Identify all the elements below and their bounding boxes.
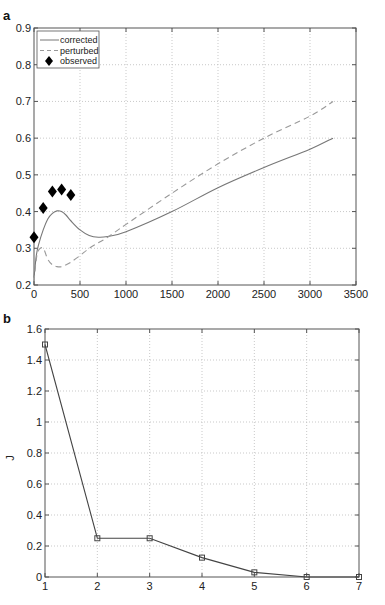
x-tick-label: 2	[94, 580, 100, 592]
y-axis-label: J	[4, 455, 16, 461]
x-tick-label: 1000	[114, 288, 138, 300]
chart-a: a05001000150020002500300035000.20.30.40.…	[3, 8, 368, 300]
y-tick-label: 0.7	[16, 95, 31, 107]
legend-label: corrected	[60, 35, 98, 45]
y-tick-label: 0.6	[27, 478, 42, 490]
x-tick-label: 3500	[344, 288, 368, 300]
panel-label: b	[3, 311, 11, 326]
y-tick-label: 0.3	[16, 242, 31, 254]
x-tick-label: 7	[356, 580, 362, 592]
x-tick-label: 6	[304, 580, 310, 592]
x-tick-label: 3000	[298, 288, 322, 300]
x-tick-label: 500	[71, 288, 89, 300]
x-tick-label: 1	[42, 580, 48, 592]
y-tick-label: 0.6	[16, 132, 31, 144]
x-tick-label: 0	[31, 288, 37, 300]
y-tick-label: 0.5	[16, 169, 31, 181]
y-tick-label: 0.8	[16, 59, 31, 71]
y-tick-label: 0.2	[27, 540, 42, 552]
y-tick-label: 0	[36, 571, 42, 583]
legend-label: observed	[60, 56, 97, 66]
legend-label: perturbed	[60, 46, 99, 56]
x-tick-label: 3	[147, 580, 153, 592]
series-perturbed	[34, 101, 333, 281]
x-tick-label: 4	[199, 580, 205, 592]
y-tick-label: 1.2	[27, 385, 42, 397]
grid	[45, 329, 359, 577]
x-tick-label: 5	[251, 580, 257, 592]
x-tick-label: 2500	[252, 288, 276, 300]
observed-marker	[39, 202, 48, 214]
y-tick-label: 0.2	[16, 279, 31, 291]
chart-b: b123456700.20.40.60.811.21.41.6J	[3, 311, 362, 592]
y-tick-label: 0.8	[27, 447, 42, 459]
axis-ticks: 123456700.20.40.60.811.21.41.6	[27, 323, 362, 592]
x-tick-label: 1500	[160, 288, 184, 300]
y-tick-label: 1.4	[27, 354, 42, 366]
series-corrected	[34, 138, 333, 278]
y-tick-label: 0.9	[16, 22, 31, 34]
y-tick-label: 1	[36, 416, 42, 428]
y-tick-label: 1.6	[27, 323, 42, 335]
observed-marker	[66, 189, 75, 201]
observed-marker	[57, 184, 66, 196]
figure: a05001000150020002500300035000.20.30.40.…	[0, 0, 385, 605]
panel-label: a	[3, 8, 11, 23]
y-tick-label: 0.4	[16, 206, 31, 218]
x-tick-label: 2000	[206, 288, 230, 300]
y-tick-label: 0.4	[27, 509, 42, 521]
legend: correctedperturbedobserved	[37, 31, 99, 68]
observed-marker	[48, 185, 57, 197]
